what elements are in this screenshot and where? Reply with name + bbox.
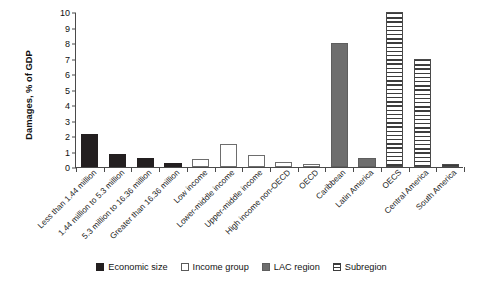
- legend-swatch-icon: [181, 263, 189, 271]
- y-axis-tick-mark: [72, 44, 76, 45]
- bar: [275, 162, 292, 167]
- bar: [414, 59, 431, 168]
- y-axis-tick-mark: [72, 121, 76, 122]
- y-axis-tick-mark: [72, 137, 76, 138]
- bar: [220, 144, 237, 167]
- y-axis-tick-label: 4: [30, 102, 76, 111]
- legend-swatch-icon: [262, 263, 270, 271]
- legend-label: Subregion: [345, 262, 387, 272]
- y-axis-tick-label: 1: [30, 148, 76, 157]
- plot-area: 012345678910: [75, 13, 463, 168]
- y-axis-tick-label: 7: [30, 55, 76, 64]
- bar: [192, 159, 209, 167]
- y-axis-tick-label: 5: [30, 86, 76, 95]
- y-axis-tick-mark: [72, 13, 76, 14]
- bar-series-container: [76, 13, 463, 167]
- bar: [137, 158, 154, 167]
- legend-item: Economic size: [96, 262, 167, 272]
- y-axis-tick-label: 2: [30, 133, 76, 142]
- bar: [248, 155, 265, 167]
- chart-legend: Economic sizeIncome groupLAC regionSubre…: [0, 262, 483, 272]
- bar: [81, 134, 98, 167]
- bar: [386, 12, 403, 167]
- legend-label: Income group: [193, 262, 249, 272]
- bar: [303, 164, 320, 167]
- legend-label: LAC region: [274, 262, 320, 272]
- y-axis-tick-label: 6: [30, 71, 76, 80]
- bar: [358, 158, 375, 167]
- y-axis-tick-label: 3: [30, 117, 76, 126]
- y-axis-tick-mark: [72, 152, 76, 153]
- y-axis-tick-label: 9: [30, 24, 76, 33]
- bar: [442, 164, 459, 167]
- legend-item: Subregion: [333, 262, 387, 272]
- legend-swatch-icon: [96, 263, 104, 271]
- y-axis-tick-mark: [72, 59, 76, 60]
- y-axis-tick-mark: [72, 90, 76, 91]
- legend-label: Economic size: [108, 262, 167, 272]
- bar: [331, 43, 348, 167]
- x-axis-label: OECS: [380, 168, 403, 191]
- legend-swatch-icon: [333, 263, 341, 271]
- y-axis-tick-label: 10: [30, 9, 76, 18]
- legend-item: Income group: [181, 262, 249, 272]
- bar: [109, 154, 126, 167]
- bar: [164, 163, 181, 167]
- x-axis-labels: Less than 1.44 million1.44 million to 5.…: [0, 168, 483, 258]
- y-axis-tick-mark: [72, 75, 76, 76]
- y-axis-tick-label: 8: [30, 40, 76, 49]
- x-axis-label: OECD: [297, 168, 320, 191]
- chart-figure: Damages, % of GDP 012345678910 Less than…: [0, 0, 483, 291]
- y-axis-tick-mark: [72, 28, 76, 29]
- legend-item: LAC region: [262, 262, 320, 272]
- y-axis-tick-mark: [72, 106, 76, 107]
